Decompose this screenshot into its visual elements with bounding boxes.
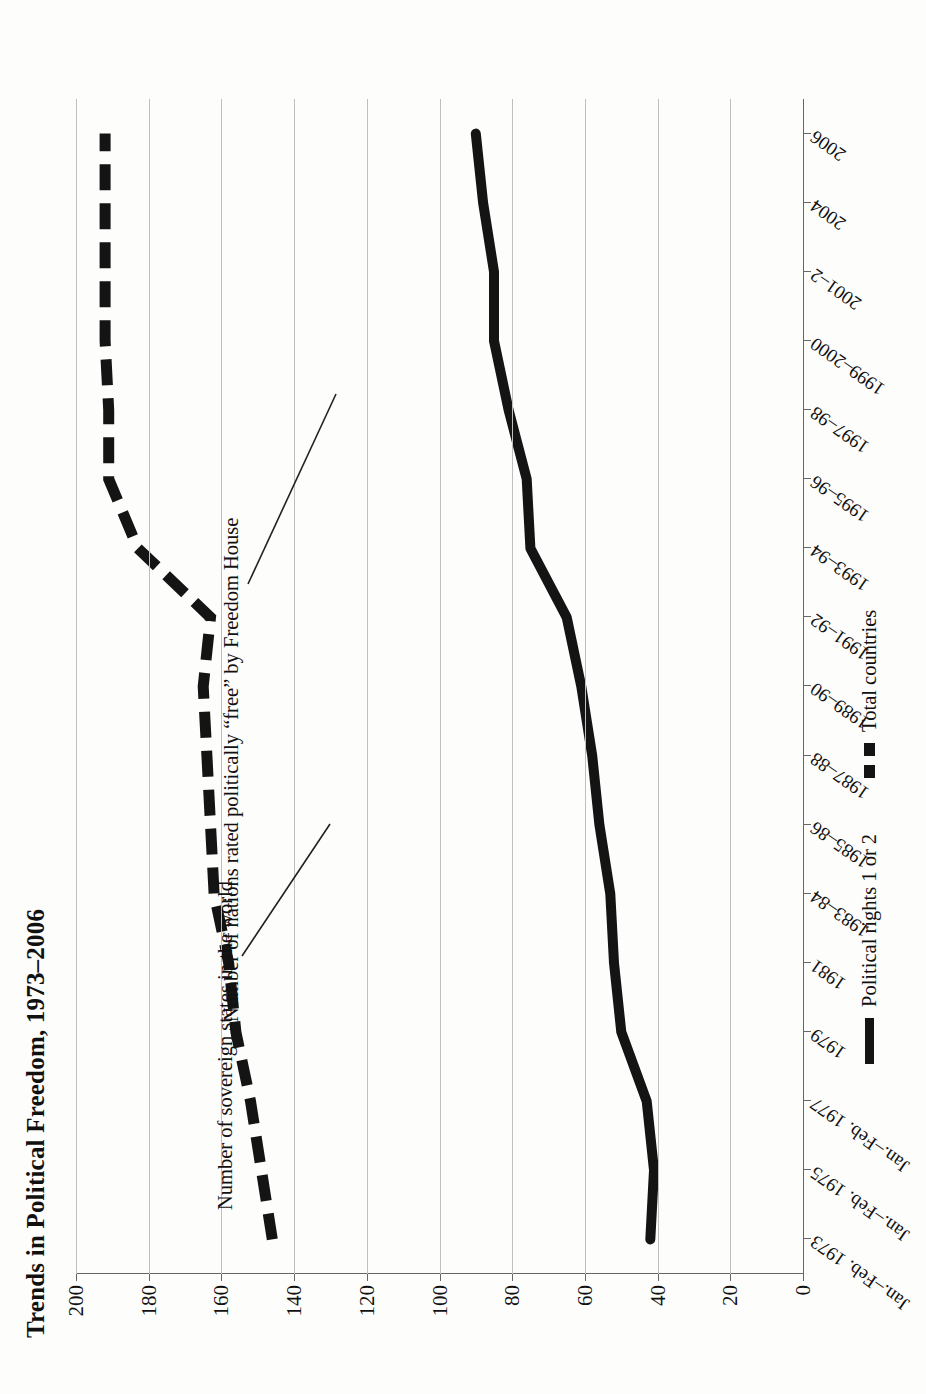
category-axis-label: 1979 — [806, 1024, 850, 1064]
total-countries-line — [105, 134, 272, 1240]
dashed-line-swatch — [864, 743, 875, 778]
category-axis-label: 1999–2000 — [806, 333, 889, 400]
category-axis-line — [803, 99, 804, 1274]
category-axis-tick — [803, 686, 811, 687]
category-axis-tick — [803, 1031, 811, 1032]
free-nations-line — [476, 134, 654, 1240]
value-axis-label: 20 — [718, 1285, 743, 1306]
value-axis-tick — [585, 1274, 586, 1281]
value-axis-tick — [149, 1274, 150, 1281]
gridline — [294, 99, 295, 1274]
value-axis-tick — [294, 1274, 295, 1281]
category-axis-tick — [803, 616, 811, 617]
category-axis-label: 2004 — [806, 194, 850, 234]
category-axis-tick — [803, 133, 811, 134]
category-axis-label: 1981 — [806, 955, 850, 995]
value-axis-tick — [76, 1274, 77, 1281]
chart-title: Trends in Political Freedom, 1973–2006 — [22, 909, 50, 1338]
category-axis-tick — [803, 409, 811, 410]
value-axis-label: 0 — [791, 1285, 816, 1296]
category-axis-tick — [803, 1100, 811, 1101]
value-axis-label: 160 — [209, 1285, 234, 1317]
plot-area: 020406080100120140160180200Jan.–Feb. 197… — [76, 99, 803, 1274]
gridline — [367, 99, 368, 1274]
category-axis-label: 2001–2 — [806, 264, 865, 315]
value-axis-label: 40 — [645, 1285, 670, 1306]
value-axis-label: 120 — [354, 1285, 379, 1317]
category-axis-label: 1995–96 — [806, 471, 873, 527]
category-axis-tick — [803, 893, 811, 894]
category-axis-tick — [803, 962, 811, 963]
gridline — [440, 99, 441, 1274]
category-axis-tick — [803, 547, 811, 548]
value-axis-label: 100 — [427, 1285, 452, 1317]
category-axis-tick — [803, 1169, 811, 1170]
gridline — [658, 99, 659, 1274]
category-axis-tick — [803, 1238, 811, 1239]
gridline — [512, 99, 513, 1274]
chart-figure: Trends in Political Freedom, 1973–2006 0… — [0, 0, 926, 1394]
legend-label-political-rights: Political rights 1 or 2 — [858, 834, 881, 1007]
chart-legend: Political rights 1 or 2 Total countries — [858, 610, 881, 1064]
gridline — [730, 99, 731, 1274]
rotated-figure-wrapper: Trends in Political Freedom, 1973–2006 0… — [0, 0, 926, 1394]
gridline — [76, 99, 77, 1274]
free-nations-annotation: Number of nations rated politically “fre… — [220, 518, 243, 1022]
category-axis-label: 1993–94 — [806, 540, 873, 596]
value-axis-label: 60 — [572, 1285, 597, 1306]
value-axis-label: 80 — [500, 1285, 525, 1306]
value-axis-tick — [658, 1274, 659, 1281]
category-axis-tick — [803, 271, 811, 272]
value-axis-label: 200 — [64, 1285, 89, 1317]
legend-item-total-countries[interactable]: Total countries — [858, 610, 881, 778]
category-axis-tick — [803, 824, 811, 825]
category-axis-label: 1997–98 — [806, 402, 873, 458]
value-axis-tick — [367, 1274, 368, 1281]
category-axis-tick — [803, 478, 811, 479]
category-axis-tick — [803, 202, 811, 203]
solid-line-swatch — [865, 1018, 874, 1064]
legend-item-political-rights[interactable]: Political rights 1 or 2 — [858, 834, 881, 1064]
gridline — [585, 99, 586, 1274]
category-axis-tick — [803, 340, 811, 341]
category-axis-tick — [803, 755, 811, 756]
gridline — [149, 99, 150, 1274]
legend-label-total-countries: Total countries — [858, 610, 881, 732]
value-axis-tick — [221, 1274, 222, 1281]
value-axis-label: 140 — [282, 1285, 307, 1317]
value-axis-tick — [440, 1274, 441, 1281]
category-axis-label: 2006 — [806, 125, 850, 165]
value-axis-tick — [803, 1274, 804, 1281]
value-axis-tick — [512, 1274, 513, 1281]
value-axis-label: 180 — [136, 1285, 161, 1317]
value-axis-tick — [730, 1274, 731, 1281]
